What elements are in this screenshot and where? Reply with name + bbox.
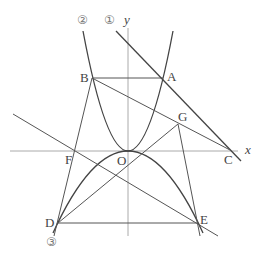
curve-label-1: ① [104, 14, 115, 26]
point-label-f: F [65, 153, 72, 166]
curve-label-2: ② [77, 14, 88, 26]
x-axis-label: x [245, 143, 251, 156]
line-ac [116, 31, 241, 161]
point-label-g: G [178, 110, 187, 123]
point-label-e: E [200, 213, 208, 226]
diagram-svg [0, 0, 268, 263]
y-axis-label: y [124, 13, 130, 26]
segment-dg [58, 124, 178, 223]
curve-label-3: ③ [46, 236, 57, 248]
origin-label: O [117, 154, 126, 167]
line-bd [54, 78, 92, 236]
point-label-c: C [224, 153, 233, 166]
point-label-d: D [45, 216, 54, 229]
diagram-canvas: ② ① ③ y x O A B C D E F G [0, 0, 268, 263]
point-label-a: A [167, 70, 176, 83]
point-label-b: B [80, 71, 89, 84]
